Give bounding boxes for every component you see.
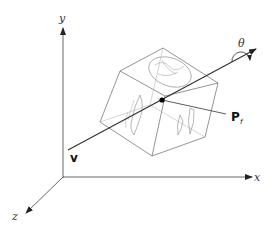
theta-label: θ: [238, 37, 245, 50]
cube-edge: [120, 71, 165, 96]
cube-edge: [152, 96, 165, 156]
top-face-texture: [145, 51, 196, 92]
cube: [100, 48, 218, 156]
y-axis-label: y: [58, 12, 66, 25]
x-axis-label: x: [254, 171, 261, 184]
rotation-diagram: y x z v θ P f: [0, 0, 279, 229]
fixed-point-subscript: f: [240, 118, 244, 126]
cube-outline: [100, 48, 218, 156]
right-face-texture: [177, 108, 194, 135]
cube-back-edge: [150, 48, 163, 105]
rotation-axis-label: v: [70, 151, 78, 165]
fixed-point: [159, 97, 164, 102]
z-axis-label: z: [11, 210, 18, 223]
z-axis: [26, 177, 63, 213]
fixed-point-label: P: [231, 110, 240, 124]
